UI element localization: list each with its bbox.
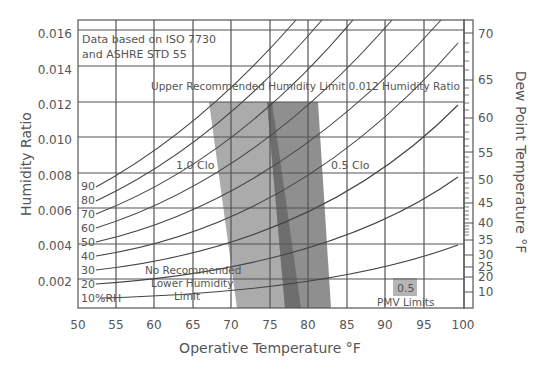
y-axis-ticks: 0.016 0.014 0.012 0.010 0.008 0.006 0.00… <box>38 27 72 289</box>
x-tick: 85 <box>339 318 354 332</box>
note-line-1: Data based on ISO 7730 <box>82 33 216 46</box>
rh-label-30: 30 <box>81 264 95 277</box>
rh-label-10: 10%RH <box>81 292 121 305</box>
y-axis-title: Humidity Ratio <box>18 112 34 216</box>
y-tick: 0.016 <box>38 27 72 41</box>
upper-limit-label: Upper Recommended Humidity Limit 0.012 H… <box>151 80 460 92</box>
clo-0-5-label: 0.5 Clo <box>331 159 370 172</box>
no-lower-limit-3: Limit <box>174 290 200 302</box>
x-tick: 60 <box>146 318 161 332</box>
y2-tick: 20 <box>478 270 493 284</box>
x-axis-title: Operative Temperature °F <box>179 340 361 356</box>
y-tick: 0.004 <box>38 239 72 253</box>
x-tick: 95 <box>416 318 431 332</box>
x-tick: 50 <box>70 318 85 332</box>
x-tick: 65 <box>185 318 200 332</box>
y2-tick: 40 <box>478 216 493 230</box>
no-lower-limit-1: No Recommended <box>145 264 241 276</box>
y-tick: 0.014 <box>38 63 72 77</box>
y2-tick: 45 <box>478 196 493 210</box>
clo-1-0-label: 1.0 Clo <box>176 159 215 172</box>
psychrometric-chart: Data based on ISO 7730 and ASHRE STD 55 … <box>0 0 541 373</box>
y-tick: 0.008 <box>38 169 72 183</box>
y-tick: 0.012 <box>38 98 72 112</box>
x-tick: 55 <box>108 318 123 332</box>
y2-tick: 10 <box>478 285 493 299</box>
y-tick: 0.002 <box>38 275 72 289</box>
dew-point-ticks <box>464 33 473 292</box>
pmv-value: 0.5 <box>397 282 415 295</box>
rh-label-70: 70 <box>81 208 95 221</box>
y2-axis-ticks: 70 65 60 55 50 45 40 35 30 25 20 10 <box>478 27 493 299</box>
rh-label-50: 50 <box>81 236 95 249</box>
x-tick: 100 <box>452 318 475 332</box>
y2-tick: 60 <box>478 111 493 125</box>
y-tick: 0.010 <box>38 133 72 147</box>
note-line-2: and ASHRE STD 55 <box>82 48 187 61</box>
y2-tick: 70 <box>478 27 493 41</box>
y-tick: 0.006 <box>38 204 72 218</box>
x-axis-ticks: 50 55 60 65 70 75 80 85 90 95 100 <box>70 318 474 332</box>
rh-label-80: 80 <box>81 194 95 207</box>
x-tick: 70 <box>223 318 238 332</box>
y2-axis-title: Dew Point Temperature °F <box>513 71 529 254</box>
pmv-label: PMV Limits <box>377 296 434 308</box>
rh-label-90: 90 <box>81 180 95 193</box>
x-tick: 80 <box>300 318 315 332</box>
y2-tick: 50 <box>478 173 493 187</box>
y2-tick: 55 <box>478 146 493 160</box>
y2-tick: 35 <box>478 233 493 247</box>
rh-label-60: 60 <box>81 222 95 235</box>
x-tick: 90 <box>377 318 392 332</box>
rh-label-40: 40 <box>81 250 95 263</box>
y2-tick: 65 <box>478 73 493 87</box>
x-tick: 75 <box>262 318 277 332</box>
no-lower-limit-2: Lower Humidity <box>151 277 233 289</box>
rh-label-20: 20 <box>81 278 95 291</box>
